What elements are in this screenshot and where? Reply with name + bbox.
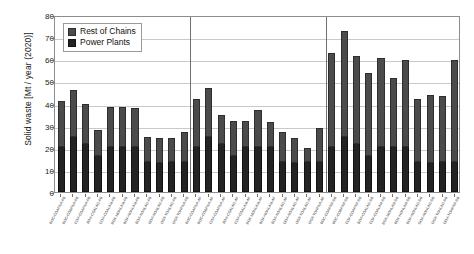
bar-segment-power-plants: [451, 162, 458, 192]
bar-group: [316, 17, 323, 192]
bar-segment-power-plants: [58, 147, 65, 192]
stacked-bar: [181, 132, 188, 192]
bar-segment-power-plants: [427, 163, 434, 192]
stacked-bar: [254, 110, 261, 192]
bar-group: [291, 17, 298, 192]
bar-segment-power-plants: [144, 162, 151, 192]
stacked-bar: [230, 121, 237, 192]
stacked-bar: [205, 88, 212, 192]
stacked-bar: [218, 115, 225, 192]
stacked-bar: [131, 108, 138, 192]
bar-segment-power-plants: [218, 144, 225, 192]
stacked-bar: [156, 138, 163, 192]
bar-segment-rest-of-chains: [242, 121, 249, 146]
bar-segment-rest-of-chains: [205, 88, 212, 137]
bar-segment-power-plants: [131, 147, 138, 192]
bar-segment-power-plants: [119, 147, 126, 192]
bar-segment-rest-of-chains: [82, 104, 89, 145]
stacked-bar: [451, 60, 458, 192]
bar-group: [390, 17, 397, 192]
bar-segment-rest-of-chains: [70, 90, 77, 137]
bar-segment-rest-of-chains: [119, 107, 126, 146]
bar-segment-rest-of-chains: [341, 31, 348, 137]
stacked-bar: [193, 99, 200, 192]
stacked-bar: [94, 130, 101, 192]
bar-segment-rest-of-chains: [304, 148, 311, 162]
bar-segment-rest-of-chains: [94, 130, 101, 155]
stacked-bar: [341, 31, 348, 193]
bar-segment-rest-of-chains: [427, 95, 434, 164]
bar-group: [365, 17, 372, 192]
bar-segment-power-plants: [414, 162, 421, 192]
bar-group: [181, 17, 188, 192]
bar-segment-rest-of-chains: [316, 128, 323, 162]
bar-group: [377, 17, 384, 192]
bar-group: [230, 17, 237, 192]
bar-segment-power-plants: [193, 147, 200, 192]
bar-group: [414, 17, 421, 192]
stacked-bar: [70, 90, 77, 192]
stacked-bar: [279, 132, 286, 192]
stacked-bar: [402, 60, 409, 192]
stacked-bar: [316, 128, 323, 192]
y-axis-tick-label: 60: [14, 56, 54, 65]
y-axis-tick-label: 80: [14, 12, 54, 21]
bar-segment-rest-of-chains: [168, 138, 175, 162]
bar-segment-rest-of-chains: [131, 108, 138, 146]
bar-group: [267, 17, 274, 192]
stacked-bar: [328, 53, 335, 192]
bar-segment-power-plants: [205, 137, 212, 192]
legend-item-power-plants: Power Plants: [68, 37, 136, 48]
y-axis-tick-label: 30: [14, 122, 54, 131]
bar-group: [168, 17, 175, 192]
y-axis-tick-mark: [50, 193, 54, 194]
bar-segment-power-plants: [328, 147, 335, 192]
bar-segment-power-plants: [316, 162, 323, 192]
bar-segment-power-plants: [439, 162, 446, 192]
bar-segment-power-plants: [82, 144, 89, 192]
bar-group: [279, 17, 286, 192]
x-axis-tick-labels: BOC-COAPNA-FBBOC-COBPNA-FBCOX-COAPNA-FBB…: [54, 196, 460, 254]
bar-group: [156, 17, 163, 192]
bar-group: [254, 17, 261, 192]
bar-segment-rest-of-chains: [279, 132, 286, 162]
bar-segment-power-plants: [181, 162, 188, 192]
bar-segment-rest-of-chains: [390, 78, 397, 147]
stacked-bar: [414, 99, 421, 192]
bar-segment-rest-of-chains: [439, 96, 446, 162]
bar-group: [193, 17, 200, 192]
bar-segment-power-plants: [156, 163, 163, 192]
bar-segment-rest-of-chains: [328, 53, 335, 147]
bar-segment-rest-of-chains: [291, 138, 298, 163]
bar-segment-rest-of-chains: [58, 101, 65, 146]
stacked-bar: [439, 96, 446, 192]
bar-segment-power-plants: [94, 156, 101, 193]
bar-group: [304, 17, 311, 192]
stacked-bar: [168, 138, 175, 192]
bar-segment-power-plants: [365, 156, 372, 193]
stacked-bar: [144, 137, 151, 192]
stacked-bar: [427, 95, 434, 192]
stacked-bar: [58, 101, 65, 192]
bar-segment-power-plants: [267, 147, 274, 192]
bar-segment-rest-of-chains: [107, 107, 114, 147]
bar-segment-power-plants: [353, 144, 360, 192]
bar-segment-power-plants: [304, 162, 311, 192]
bar-segment-rest-of-chains: [414, 99, 421, 162]
legend-swatch-icon-rest-of-chains: [68, 28, 76, 36]
bar-segment-rest-of-chains: [402, 60, 409, 146]
bar-segment-power-plants: [70, 137, 77, 192]
stacked-bar: [304, 148, 311, 192]
bar-segment-rest-of-chains: [451, 60, 458, 162]
bar-segment-rest-of-chains: [156, 138, 163, 163]
bar-segment-power-plants: [168, 162, 175, 192]
bar-group: [451, 17, 458, 192]
y-axis-tick-label: 20: [14, 144, 54, 153]
stacked-bar: [377, 58, 384, 192]
chart-figure: Solid waste [Mt / year (2020)] 010203040…: [0, 0, 474, 254]
legend-swatch-icon-power-plants: [68, 39, 76, 47]
bar-segment-rest-of-chains: [267, 122, 274, 146]
bar-segment-power-plants: [230, 156, 237, 193]
y-axis-tick-label: 40: [14, 100, 54, 109]
bar-segment-rest-of-chains: [353, 56, 360, 145]
